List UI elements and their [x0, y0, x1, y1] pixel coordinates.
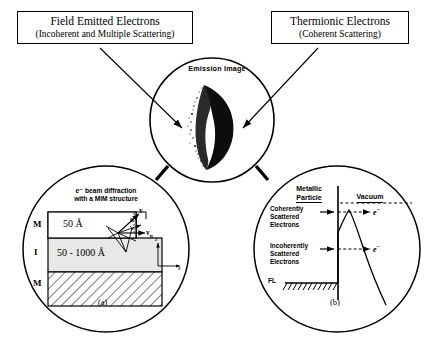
coherent-line1: Coherently: [270, 205, 303, 213]
callout-left-title: Field Emitted Electrons: [50, 15, 159, 28]
panel-a-title-line1: e⁻ beam diffraction: [56, 187, 156, 195]
callout-right-title: Thermionic Electrons: [290, 15, 390, 28]
callout-field-emitted: Field Emitted Electrons (Incoherent and …: [17, 11, 193, 44]
panel-b-caption: (b): [330, 297, 340, 307]
label-coherently-scattered: Coherently Scattered Electrons: [270, 205, 303, 229]
callout-left-subtitle: (Incoherent and Multiple Scattering): [35, 28, 174, 40]
incoherent-line3: Electrons: [270, 258, 308, 266]
axis-label-z: z: [155, 236, 157, 242]
coherent-line2: Scattered: [270, 213, 303, 221]
label-incoherently-scattered: Incoherently Scattered Electrons: [270, 242, 308, 266]
figure-root: Field Emitted Electrons (Incoherent and …: [0, 0, 424, 342]
panel-a-title-line2: with a MIM structure: [56, 195, 156, 203]
electron-label-incoherent: e−: [373, 243, 380, 254]
emission-image-title: Emission Image: [178, 64, 256, 73]
vector-label-v: v: [139, 206, 143, 215]
coherent-line3: Electrons: [270, 221, 303, 229]
panel-b-header-metallic-particle: Metallic Particle: [283, 185, 335, 203]
thickness-top-metal: 50 Å: [63, 218, 83, 229]
callout-thermionic: Thermionic Electrons (Coherent Scatterin…: [271, 11, 409, 44]
layer-label-bottom-metal: M: [33, 278, 42, 288]
connector-right: [256, 166, 268, 180]
layer-label-top-metal: M: [33, 219, 42, 229]
axis-label-x: x: [178, 265, 181, 271]
panel-a-title: e⁻ beam diffraction with a MIM structure: [56, 187, 156, 203]
vector-label-v-parallel: vn: [146, 228, 153, 239]
layer-label-insulator: I: [34, 247, 38, 257]
thickness-insulator: 50 - 1000 Å: [57, 247, 105, 258]
header-metallic-line2: Particle: [296, 194, 321, 204]
callout-right-subtitle: (Coherent Scattering): [299, 28, 381, 40]
panel-a-caption: (a): [98, 297, 107, 307]
header-vacuum-label: Vacuum: [357, 193, 384, 203]
incoherent-line2: Scattered: [270, 250, 308, 258]
incoherent-line1: Incoherently: [270, 242, 308, 250]
vector-label-theta: θ: [130, 216, 133, 223]
header-metallic-line1: Metallic: [283, 185, 335, 194]
figure-vector-layer: [0, 0, 424, 342]
connector-left: [156, 166, 168, 180]
panel-b-header-vacuum: Vacuum: [345, 193, 395, 203]
fermi-level-label: FL: [268, 277, 276, 284]
electron-label-coherent: e−: [373, 206, 380, 217]
